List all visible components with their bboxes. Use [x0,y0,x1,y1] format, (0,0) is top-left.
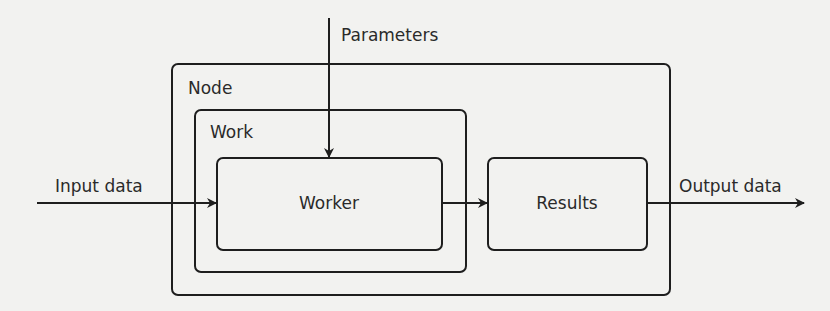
diagram-canvas [0,0,830,311]
output-data-label: Output data [679,178,782,195]
node-container [172,64,670,295]
worker-label: Worker [299,195,359,212]
parameters-label: Parameters [341,27,438,44]
results-label: Results [536,195,597,212]
input-data-label: Input data [55,178,143,195]
node-label: Node [188,80,232,97]
work-label: Work [210,124,253,141]
